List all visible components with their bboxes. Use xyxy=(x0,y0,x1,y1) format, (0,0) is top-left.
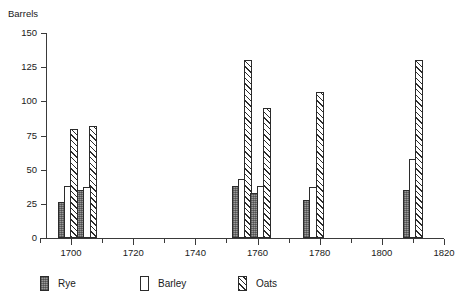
x-axis-minor-tick xyxy=(413,239,414,243)
legend-item-oats[interactable]: Oats xyxy=(238,272,277,294)
rye-swatch-icon xyxy=(40,276,49,291)
x-axis-tick xyxy=(444,239,445,245)
bar-oats xyxy=(70,129,78,238)
x-axis-line xyxy=(40,238,444,239)
x-axis-tick xyxy=(320,239,321,245)
y-axis-tick-label: 0 xyxy=(9,232,37,243)
bar-barley xyxy=(83,187,91,238)
legend-item-barley[interactable]: Barley xyxy=(140,272,186,294)
bars-layer xyxy=(40,33,444,238)
legend-item-label: Oats xyxy=(256,278,277,289)
x-axis-tick-label: 1820 xyxy=(424,247,458,258)
x-axis-tick-label: 1720 xyxy=(113,247,153,258)
x-axis-minor-tick xyxy=(351,239,352,243)
x-axis-tick-label: 1760 xyxy=(238,247,278,258)
y-axis-tick-label: 25 xyxy=(9,198,37,209)
x-axis-tick xyxy=(195,239,196,245)
bar-oats xyxy=(415,60,423,238)
bar-oats xyxy=(316,92,324,238)
y-axis-tick-label: 75 xyxy=(9,130,37,141)
legend-item-label: Barley xyxy=(158,278,186,289)
x-axis-tick xyxy=(71,239,72,245)
x-axis-tick xyxy=(258,239,259,245)
y-axis-tick-label: 150 xyxy=(9,27,37,38)
legend-item-label: Rye xyxy=(58,278,76,289)
y-axis-tick xyxy=(41,238,46,239)
x-axis-minor-tick xyxy=(102,239,103,243)
chart-legend: RyeBarleyOats xyxy=(40,272,340,294)
y-axis-tick-label: 100 xyxy=(9,95,37,106)
x-axis-tick-label: 1700 xyxy=(51,247,91,258)
x-axis-minor-tick xyxy=(40,239,41,243)
x-axis-minor-tick xyxy=(289,239,290,243)
x-axis-tick-label: 1780 xyxy=(300,247,340,258)
bar-oats xyxy=(263,108,271,238)
y-axis-tick-label: 50 xyxy=(9,164,37,175)
legend-item-rye[interactable]: Rye xyxy=(40,272,76,294)
x-axis-tick xyxy=(133,239,134,245)
x-axis-tick-label: 1800 xyxy=(362,247,402,258)
y-axis-tick-label: 125 xyxy=(9,61,37,72)
x-axis-tick xyxy=(382,239,383,245)
bar-chart-figure: Barrels 0255075100125150 170017201740176… xyxy=(0,0,458,308)
x-axis-minor-tick xyxy=(226,239,227,243)
x-axis-tick-label: 1740 xyxy=(175,247,215,258)
barley-swatch-icon xyxy=(140,276,149,291)
x-axis-minor-tick xyxy=(164,239,165,243)
oats-swatch-icon xyxy=(238,276,247,291)
y-axis-title: Barrels xyxy=(8,8,38,19)
